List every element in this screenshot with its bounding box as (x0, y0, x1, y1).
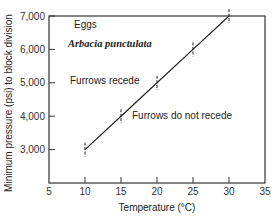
x-tick-label: 25 (187, 186, 199, 197)
annotation-eggs: Eggs (74, 19, 97, 30)
x-tick-label: 15 (115, 186, 127, 197)
x-tick-label: 20 (151, 186, 163, 197)
y-tick-label: 6,000 (20, 44, 45, 55)
y-axis: 3,0004,0005,0006,0007,000 (20, 11, 55, 156)
x-tick-label: 30 (223, 186, 235, 197)
annotation-furrows-recede: Furrows recede (70, 75, 140, 86)
annotation-furrows-do-not-recede: Furrows do not recede (132, 110, 232, 121)
y-tick-label: 7,000 (20, 11, 45, 22)
x-tick-label: 5 (46, 186, 52, 197)
x-tick-label: 10 (79, 186, 91, 197)
x-axis-title: Temperature (°C) (119, 202, 196, 213)
y-tick-label: 5,000 (20, 77, 45, 88)
y-tick-label: 4,000 (20, 111, 45, 122)
x-axis: 5101520253035 (46, 177, 271, 197)
y-axis-title: Minimum pressure (psi) to block division (3, 14, 14, 192)
x-tick-label: 35 (259, 186, 271, 197)
y-tick-label: 3,000 (20, 144, 45, 155)
annotation-species: Arbacia punctulata (67, 38, 152, 49)
chart: 3,0004,0005,0006,0007,000 5101520253035 … (0, 0, 274, 217)
